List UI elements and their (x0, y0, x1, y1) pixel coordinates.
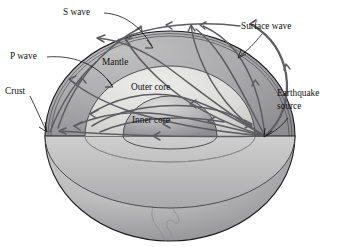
label-crust: Crust (5, 86, 26, 96)
label-outer-core: Outer core (131, 82, 171, 92)
earth-diagram-svg: S wave P wave Surface wave Crust Mantle … (0, 0, 338, 247)
earth-interior-figure: S wave P wave Surface wave Crust Mantle … (0, 0, 338, 247)
label-s-wave: S wave (63, 7, 90, 17)
label-earthquake-source-line2: source (277, 101, 301, 111)
label-earthquake-source-line1: Earthquake (277, 88, 319, 98)
label-mantle: Mantle (102, 57, 128, 67)
label-inner-core: Inner core (132, 115, 170, 125)
label-surface-wave: Surface wave (241, 21, 291, 31)
label-p-wave: P wave (10, 51, 37, 61)
crust-leader (30, 96, 46, 130)
